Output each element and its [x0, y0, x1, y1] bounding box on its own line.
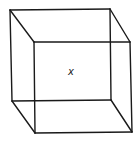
edge-back-bottom — [12, 100, 111, 101]
edge-depth-bottom-right — [111, 100, 132, 132]
cube-label: x — [67, 66, 74, 77]
edge-back-left — [10, 10, 12, 101]
edge-depth-top-right — [110, 9, 130, 42]
edge-back-right — [110, 9, 111, 100]
edge-front-bottom — [35, 132, 132, 133]
cube-diagram: x — [0, 0, 140, 141]
edge-depth-top-left — [10, 10, 34, 42]
edge-back-top — [10, 9, 110, 10]
edge-depth-bottom-left — [12, 101, 35, 133]
back-face — [10, 9, 111, 101]
edge-front-left — [34, 42, 35, 133]
front-face — [34, 42, 132, 133]
edge-front-right — [130, 42, 132, 132]
